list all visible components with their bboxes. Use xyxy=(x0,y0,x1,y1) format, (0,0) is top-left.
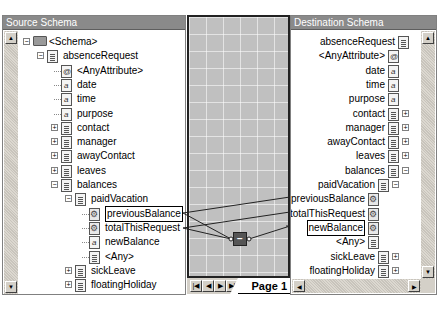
collapse-icon[interactable]: − xyxy=(37,52,44,59)
collapse-icon[interactable]: − xyxy=(392,181,399,188)
expand-icon[interactable]: + xyxy=(51,167,58,174)
expand-icon[interactable]: + xyxy=(65,281,72,288)
minus-icon: − xyxy=(237,233,243,244)
subtraction-functoid[interactable]: − xyxy=(233,232,247,246)
previous-page-button[interactable]: ◀ xyxy=(202,280,214,292)
expand-icon[interactable]: + xyxy=(402,152,409,159)
expand-icon[interactable]: + xyxy=(402,138,409,145)
expand-icon[interactable]: + xyxy=(51,152,58,159)
source-schema-tree: −<Schema>−absenceRequest<AnyAttribute>da… xyxy=(19,31,185,294)
collapse-icon[interactable]: − xyxy=(51,181,58,188)
first-page-button[interactable]: |◀ xyxy=(190,280,202,292)
destination-tree-label: floatingHoliday xyxy=(309,262,375,279)
scroll-left-button[interactable]: ◀ xyxy=(293,280,305,292)
tree-connector xyxy=(82,214,89,215)
destination-schema-panel: Destination Schema absenceRequest<AnyAtt… xyxy=(290,15,437,295)
scroll-up-button[interactable]: ▲ xyxy=(5,32,17,44)
source-schema-title: Source Schema xyxy=(3,16,185,30)
scroll-down-button[interactable]: ▼ xyxy=(422,266,434,278)
destination-schema-title: Destination Schema xyxy=(291,16,436,30)
destination-schema-tree: absenceRequest<AnyAttribute>datetimepurp… xyxy=(291,31,421,279)
expand-icon[interactable]: + xyxy=(392,253,399,260)
destination-vertical-scrollbar[interactable]: ▲ ▼ xyxy=(421,31,435,279)
tree-connector xyxy=(82,242,89,243)
scroll-down-button[interactable]: ▼ xyxy=(5,281,17,293)
collapse-icon[interactable]: − xyxy=(65,195,72,202)
tree-connector xyxy=(82,228,89,229)
expand-icon[interactable]: + xyxy=(51,138,58,145)
scroll-right-button[interactable]: ▶ xyxy=(408,280,420,292)
destination-horizontal-scrollbar[interactable]: ◀ ▶ xyxy=(292,279,421,293)
source-tree-item[interactable]: +floatingHoliday xyxy=(19,276,185,294)
expand-icon[interactable]: + xyxy=(392,267,399,274)
tree-connector xyxy=(54,71,61,72)
collapse-icon[interactable]: − xyxy=(402,167,409,174)
tree-connector xyxy=(82,257,89,258)
expand-icon[interactable]: + xyxy=(402,110,409,117)
tree-connector xyxy=(54,114,61,115)
next-page-button[interactable]: ▶ xyxy=(214,280,226,292)
expand-icon[interactable]: + xyxy=(51,124,58,131)
source-vertical-scrollbar[interactable]: ▲ ▼ xyxy=(4,31,18,294)
scroll-up-button[interactable]: ▲ xyxy=(422,32,434,44)
folder-icon xyxy=(33,36,47,46)
source-tree-label: floatingHoliday xyxy=(91,276,157,294)
scrollbar-corner xyxy=(421,279,435,293)
source-schema-panel: Source Schema ▲ ▼ −<Schema>−absenceReque… xyxy=(2,15,186,295)
record-icon xyxy=(75,279,86,292)
expand-icon[interactable]: + xyxy=(65,267,72,274)
collapse-icon[interactable]: − xyxy=(23,38,30,45)
tree-connector xyxy=(54,99,61,100)
destination-tree-item[interactable]: +floatingHoliday xyxy=(291,262,421,279)
expand-icon[interactable]: + xyxy=(402,124,409,131)
tab-page-1[interactable]: Page 1 xyxy=(238,278,290,294)
tree-connector xyxy=(54,85,61,86)
record-icon xyxy=(378,265,389,278)
